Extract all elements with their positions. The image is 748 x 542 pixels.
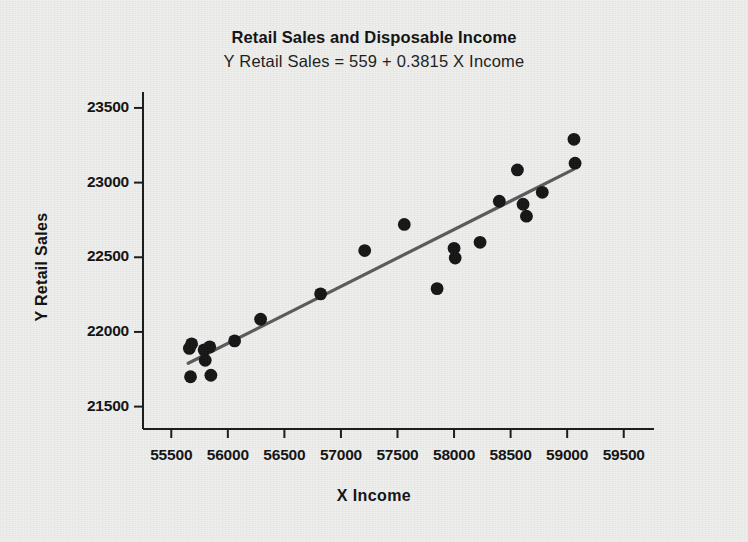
data-points (183, 133, 582, 383)
data-point (254, 313, 267, 326)
data-point (185, 337, 198, 350)
regression-line (188, 169, 574, 363)
data-point (204, 369, 217, 382)
data-point (536, 186, 549, 199)
scatter-plot-canvas (0, 0, 748, 542)
data-point (493, 195, 506, 208)
data-point (520, 210, 533, 223)
data-point (184, 370, 197, 383)
data-point (449, 252, 462, 265)
data-point (203, 340, 216, 353)
data-point (228, 334, 241, 347)
fit-line (188, 169, 574, 363)
data-point (358, 244, 371, 257)
data-point (511, 164, 524, 177)
data-point (569, 157, 582, 170)
data-point (398, 218, 411, 231)
data-point (474, 236, 487, 249)
data-point (568, 133, 581, 146)
data-point (314, 287, 327, 300)
data-point (517, 198, 530, 211)
data-point (431, 282, 444, 295)
data-point (199, 354, 212, 367)
chart-figure: Retail Sales and Disposable Income Y Ret… (0, 0, 748, 542)
